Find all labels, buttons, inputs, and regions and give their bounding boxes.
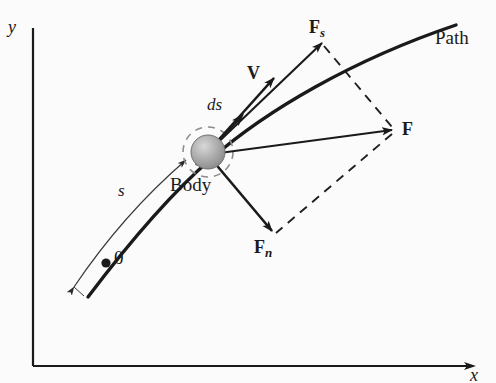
- force-path-diagram: y x Path Body 0 s ds V Fs F Fn: [0, 0, 496, 383]
- tangential-force-subscript: s: [320, 25, 325, 40]
- origin-label: 0: [114, 248, 124, 267]
- normal-force-subscript: n: [265, 245, 272, 260]
- resultant-force-symbol: F: [402, 119, 413, 139]
- resultant-force-label: F: [402, 120, 413, 138]
- path-curve: [88, 25, 456, 297]
- body-sphere: [191, 135, 225, 169]
- tangential-force-label: Fs: [309, 18, 325, 36]
- construction-line-fs-to-f: [324, 46, 392, 127]
- tangential-force-symbol: F: [309, 17, 320, 37]
- diagram-canvas: [0, 0, 496, 383]
- velocity-symbol: V: [247, 63, 260, 83]
- normal-force-symbol: F: [254, 237, 265, 257]
- parallelogram-construction: [276, 46, 392, 233]
- construction-line-f-to-fn: [276, 134, 392, 233]
- arc-tick-lower: [74, 287, 84, 296]
- velocity-vector-label: V: [247, 64, 260, 82]
- path-label: Path: [435, 28, 469, 47]
- body-label: Body: [170, 175, 211, 194]
- normal-force-label: Fn: [254, 238, 272, 256]
- differential-arc-label: ds: [207, 96, 222, 113]
- arc-length-label: s: [118, 182, 125, 199]
- x-axis-label: x: [470, 366, 478, 383]
- vector-arrows: [196, 43, 392, 231]
- origin-point-marker: [101, 258, 110, 267]
- resultant-force-vector: [212, 130, 392, 154]
- y-axis-label: y: [8, 18, 16, 36]
